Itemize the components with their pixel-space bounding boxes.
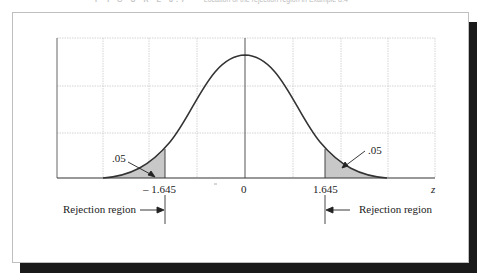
left-reject-arrow (140, 207, 164, 213)
tick-label-neg-1645: – 1.645 (143, 183, 176, 195)
normal-curve-chart (0, 0, 486, 279)
right-reject-arrow (326, 207, 350, 213)
left-rejection-region-label: Rejection region (63, 203, 136, 215)
right-rejection-region-label: Rejection region (359, 203, 432, 215)
left-tail-area-label: .05 (112, 152, 126, 164)
tick-label-pos-1645: 1.645 (313, 183, 338, 195)
x-axis-label-z: z (431, 183, 435, 195)
tick-label-zero: 0 (241, 183, 247, 195)
right-tail-arrow (342, 151, 365, 168)
right-tail-area-label: .05 (368, 144, 382, 156)
